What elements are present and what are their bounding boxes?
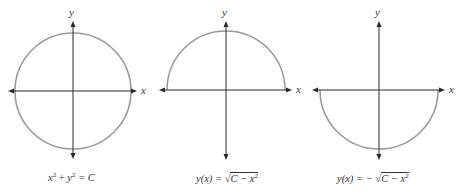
caption-lower-semicircle-equation: y(x) = − √C − x2: [337, 172, 409, 185]
y-axis-up-arrow-icon: [224, 21, 229, 27]
y-axis-down-arrow-icon: [377, 154, 382, 160]
y-axis-label: y: [69, 7, 74, 18]
caption-lhs: y(x) =: [196, 173, 225, 184]
y-axis-up-arrow-icon: [377, 21, 382, 27]
x-axis-right-arrow-icon: [439, 88, 445, 93]
panel-upper-semicircle: [159, 21, 292, 160]
y-axis-down-arrow-icon: [71, 153, 76, 159]
caption-radicand-group: C − x2: [230, 172, 258, 185]
caption-lhs: y(x) = −: [337, 173, 375, 184]
caption-exponent: 2: [254, 172, 258, 180]
diagram-canvas: [0, 0, 462, 191]
x-axis-right-arrow-icon: [131, 89, 137, 94]
y-axis-up-arrow-icon: [71, 21, 76, 27]
panel-lower-semicircle: [312, 21, 445, 160]
x-axis-left-arrow-icon: [312, 88, 318, 93]
caption-circle-equation: x2 + y2 = C: [48, 172, 95, 184]
x-axis-left-arrow-icon: [8, 89, 14, 94]
caption-upper-semicircle-equation: y(x) = √C − x2: [196, 172, 258, 185]
x-axis-label: x: [296, 84, 301, 95]
x-axis-left-arrow-icon: [159, 88, 165, 93]
caption-rhs: = C: [76, 172, 95, 183]
y-axis-label: y: [375, 7, 380, 18]
caption-radicand: C − x: [230, 173, 254, 184]
y-axis-label: y: [222, 7, 227, 18]
caption-exponent: 2: [405, 172, 409, 180]
caption-operator: +: [56, 172, 67, 183]
x-axis-label: x: [449, 84, 454, 95]
panel-circle: [8, 21, 137, 159]
caption-radicand-group: C − x2: [381, 172, 409, 185]
x-axis-right-arrow-icon: [286, 88, 292, 93]
caption-radicand: C − x: [381, 173, 405, 184]
x-axis-label: x: [141, 85, 146, 96]
y-axis-down-arrow-icon: [224, 154, 229, 160]
